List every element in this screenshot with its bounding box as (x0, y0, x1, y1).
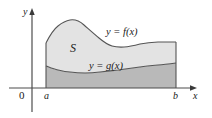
figure-graphic (0, 0, 212, 118)
region-label-S: S (70, 42, 76, 54)
origin-label: 0 (19, 90, 25, 101)
upper-curve-label: y = f(x) (106, 27, 138, 38)
upper-limit-label-b: b (173, 91, 178, 101)
figure-container: y x 0 a b S y = f(x) y = g(x) (0, 0, 212, 118)
lower-limit-label-a: a (44, 91, 49, 101)
lower-curve-label: y = g(x) (89, 61, 123, 72)
x-axis-label: x (193, 91, 197, 101)
y-axis-arrowhead (29, 8, 34, 15)
y-axis-label: y (23, 7, 27, 17)
